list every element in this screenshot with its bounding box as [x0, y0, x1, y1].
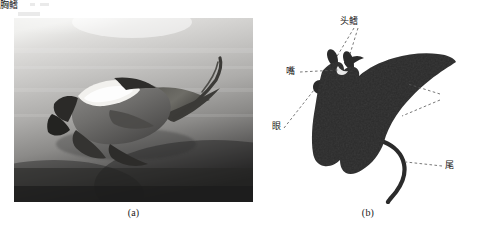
- manta-ray-silhouette-svg: [258, 6, 477, 204]
- leader-pectoral-b: [402, 100, 440, 116]
- panel-a-photograph: [14, 18, 253, 202]
- leader-eye: [284, 90, 314, 128]
- label-mouth: 嘴: [286, 66, 295, 76]
- manta-ray-photo-svg: [14, 18, 253, 202]
- manta-silhouette: [312, 49, 456, 202]
- label-pectoral-fin: 胸鳍: [0, 0, 19, 10]
- label-eye: 眼: [272, 121, 281, 131]
- panel-b-diagram: [258, 6, 477, 204]
- caption-panel-a: (a): [14, 207, 253, 218]
- label-head-fin: 头鳍: [340, 16, 359, 26]
- scan-artifact: [40, 3, 49, 6]
- manta-ray-photo: [14, 18, 253, 202]
- caption-panel-b: (b): [262, 207, 474, 218]
- leader-tail: [406, 162, 442, 166]
- scan-artifact: [18, 12, 40, 16]
- figure-root: 头鳍 嘴 眼 胸鳍 尾 (a) (b): [0, 0, 479, 240]
- photo-grain-overlay: [14, 18, 253, 202]
- label-tail: 尾: [445, 160, 454, 170]
- scan-artifact: [30, 3, 35, 6]
- leader-head-fin-b: [350, 28, 358, 54]
